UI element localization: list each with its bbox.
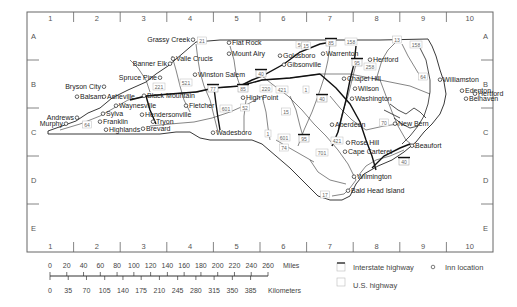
nc-inn-map: 12345678910 12345678910 ABCDE ABCDE xyxy=(0,0,517,307)
inn-location[interactable]: Valle Crucis xyxy=(171,55,213,62)
inn-location[interactable]: Wilson xyxy=(353,85,379,92)
inn-location[interactable]: Bald Head Island xyxy=(346,187,404,194)
inn-location[interactable]: Spruce Pine xyxy=(119,74,162,82)
inn-marker-icon xyxy=(184,104,188,108)
place-label: Grassy Creek xyxy=(147,36,190,44)
interstate-shield: 40 xyxy=(255,70,267,78)
scale-miles-tick-label: 100 xyxy=(128,262,140,269)
svg-text:15: 15 xyxy=(283,109,289,115)
place-label: Chapel Hill xyxy=(347,75,381,83)
inn-location[interactable]: Aberdeen xyxy=(330,121,365,128)
scale-km-label: Kilometers xyxy=(268,287,302,294)
place-label: Hendersonville xyxy=(145,111,191,118)
map-frame: 12345678910 12345678910 ABCDE ABCDE xyxy=(27,12,493,252)
us-highway-shield: 70 xyxy=(380,119,389,126)
svg-text:74: 74 xyxy=(281,145,287,151)
inn-location[interactable]: Balsam xyxy=(75,93,103,100)
place-label: Wilson xyxy=(358,85,379,92)
us-highway-shield: 15 xyxy=(302,42,311,49)
inn-marker-icon xyxy=(346,141,350,145)
inn-marker-icon xyxy=(282,63,286,67)
inn-marker-icon xyxy=(278,54,282,58)
inn-location[interactable]: Highlands xyxy=(104,126,140,134)
inn-location[interactable]: Sylva xyxy=(101,110,123,118)
place-label: Brevard xyxy=(146,125,171,132)
inn-location[interactable]: Brevard xyxy=(141,125,170,132)
scale-miles-tick-label: 0 xyxy=(48,262,52,269)
inn-location[interactable]: New Bern xyxy=(393,120,429,127)
inn-marker-icon xyxy=(227,41,231,45)
place-label: Spruce Pine xyxy=(119,74,157,82)
inn-location[interactable]: Franklin xyxy=(98,118,128,125)
grid-column-label: 8 xyxy=(374,14,378,23)
svg-text:13: 13 xyxy=(394,37,400,43)
scale-miles-tick-label: 20 xyxy=(63,262,71,269)
inn-location[interactable]: Williamston xyxy=(438,76,479,83)
place-label: Aberdeen xyxy=(335,121,365,128)
inn-marker-icon xyxy=(353,87,357,91)
scale-km-tick-label: 0 xyxy=(48,287,52,294)
inn-marker-icon xyxy=(241,96,245,100)
inn-location[interactable]: Asheville xyxy=(102,93,135,100)
inn-marker-icon xyxy=(193,73,197,77)
inn-location[interactable]: Murphy xyxy=(40,120,68,128)
place-label: Waynesville xyxy=(119,102,156,110)
inn-marker-icon xyxy=(102,95,106,99)
us-highway-shield: 13 xyxy=(393,36,402,43)
inn-location[interactable]: Mount Airy xyxy=(227,50,265,58)
svg-text:220: 220 xyxy=(262,86,271,92)
inn-location[interactable]: Washington xyxy=(350,95,392,103)
inn-location[interactable]: Warrenton xyxy=(321,50,358,57)
inn-location[interactable]: Beaufort xyxy=(410,142,441,149)
inn-location[interactable]: Cape Carteret xyxy=(343,148,392,156)
interstate-shield: 77 xyxy=(207,85,219,93)
svg-text:52: 52 xyxy=(242,105,248,111)
us-highway-shield: 1 xyxy=(265,130,271,137)
inn-location[interactable]: Hendersonville xyxy=(140,111,191,118)
grid-column-label: 6 xyxy=(281,14,285,23)
inn-location[interactable]: Flat Rock xyxy=(227,39,262,46)
grid-column-label: 8 xyxy=(374,242,378,251)
inn-location[interactable]: High Point xyxy=(241,94,278,102)
grid-column-label: 3 xyxy=(141,242,145,251)
inn-location[interactable]: Wilmington xyxy=(352,173,392,181)
place-label: Williamston xyxy=(443,76,479,83)
inn-marker-icon xyxy=(368,58,372,62)
legend: Interstate highway Inn location U.S. hig… xyxy=(337,263,483,290)
inn-location[interactable]: Chapel Hill xyxy=(342,75,381,83)
inn-marker-icon xyxy=(102,85,106,89)
inn-marker-icon xyxy=(321,52,325,56)
grid-column-label: 10 xyxy=(466,242,474,251)
grid-row-label: A xyxy=(483,32,488,41)
place-label: New Bern xyxy=(398,120,429,127)
svg-text:601: 601 xyxy=(222,106,231,112)
inn-marker-icon xyxy=(98,120,102,124)
inn-marker-icon xyxy=(330,123,334,127)
inn-marker-icon xyxy=(211,131,215,135)
inn-location[interactable]: Waynesville xyxy=(114,102,156,110)
inn-location[interactable]: Goldsboro xyxy=(278,52,315,59)
svg-text:421: 421 xyxy=(278,87,287,93)
place-label: Cape Carteret xyxy=(348,148,392,156)
inn-location[interactable]: Fletcher xyxy=(184,102,215,109)
inn-location[interactable]: Rose Hill xyxy=(346,139,379,146)
inn-location[interactable]: Hertford xyxy=(368,56,398,63)
place-label: Hertford xyxy=(373,56,398,63)
scale-km-tick-label: 70 xyxy=(83,287,91,294)
inn-location[interactable]: Wadesboro xyxy=(211,129,251,136)
inn-location[interactable]: Bryson City xyxy=(65,83,106,91)
scale-km-tick-label: 105 xyxy=(99,287,111,294)
inn-location[interactable]: Winston Salem xyxy=(193,71,245,78)
place-label: Valle Crucis xyxy=(176,55,213,62)
svg-text:1: 1 xyxy=(305,87,308,93)
inn-location[interactable]: Banner Elk xyxy=(133,60,172,67)
inn-location[interactable]: Gibsonville xyxy=(282,61,321,68)
inn-location[interactable]: Belhaven xyxy=(464,95,498,102)
inn-location[interactable]: Grassy Creek xyxy=(147,36,195,44)
scale-miles-tick-label: 240 xyxy=(245,262,257,269)
svg-text:1: 1 xyxy=(267,131,270,137)
inn-location[interactable]: Black Mountain xyxy=(142,92,195,99)
grid-column-label: 9 xyxy=(421,14,425,23)
inn-marker-icon xyxy=(141,127,145,131)
scale-km-tick-label: 280 xyxy=(190,287,202,294)
